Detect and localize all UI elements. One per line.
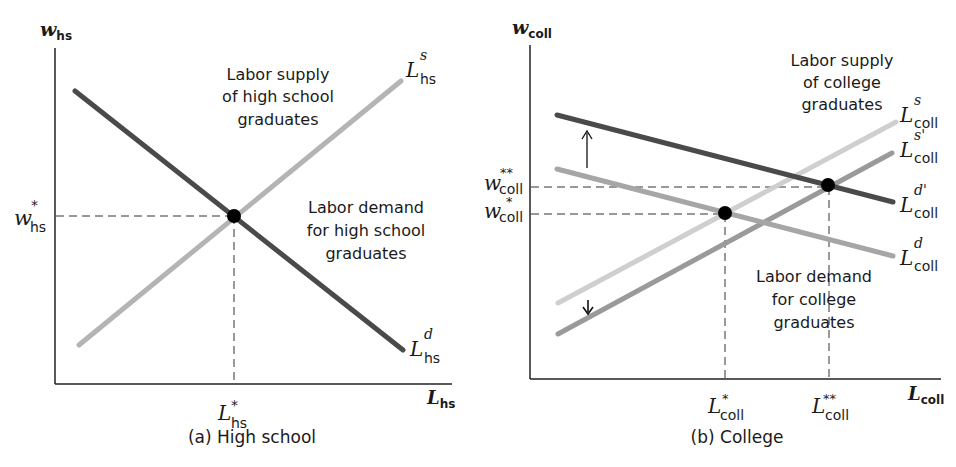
demand-label-hs: L d hs [409, 326, 440, 366]
svg-text:for college: for college [772, 290, 856, 309]
equilibrium-point-coll-2 [821, 178, 835, 192]
svg-text:graduates: graduates [237, 110, 318, 129]
svg-text:L: L [409, 337, 423, 361]
supply-label-coll: L s coll [899, 92, 938, 131]
svg-text:*: * [231, 397, 238, 413]
svg-text:coll: coll [914, 258, 938, 274]
svg-text:coll: coll [720, 407, 744, 423]
svg-text:L: L [405, 58, 419, 82]
svg-text:of college: of college [803, 73, 881, 92]
supply-note-coll: Labor supply of college graduates [790, 51, 893, 114]
panel-b-college: wcoll Lcoll ** w coll * w coll * L coll … [484, 16, 944, 447]
demand-curve-coll-shifted [557, 115, 893, 202]
up-arrow-icon [582, 131, 592, 168]
svg-text:L: L [899, 246, 913, 270]
demand-label-coll: L d coll [899, 235, 938, 274]
svg-text:for high school: for high school [307, 221, 425, 240]
svg-text:coll: coll [825, 407, 849, 423]
eq-qty-1-label-b: * L coll [707, 391, 744, 423]
caption-a: (a) High school [188, 427, 316, 447]
eq-wage-2-label-b: ** w coll [484, 165, 523, 197]
x-axis-label-a: Lhs [426, 387, 455, 411]
figure-canvas: whs Lhs * w hs * L hs L s hs L d hs [0, 0, 956, 467]
svg-text:s: s [420, 47, 427, 63]
eq-qty-label-a: * L hs [217, 397, 247, 431]
equilibrium-point-hs [227, 209, 241, 223]
svg-text:Labor supply: Labor supply [790, 51, 893, 70]
svg-text:d: d [914, 235, 923, 251]
svg-text:L: L [899, 138, 913, 162]
caption-b: (b) College [691, 427, 784, 447]
y-axis-label-b: wcoll [512, 16, 552, 41]
svg-text:hs: hs [420, 71, 436, 87]
svg-text:graduates: graduates [801, 95, 882, 114]
svg-text:Labor demand: Labor demand [756, 267, 872, 286]
svg-text:s': s' [914, 127, 925, 143]
svg-text:L: L [899, 103, 913, 127]
svg-text:hs: hs [30, 219, 46, 235]
svg-text:of high school: of high school [222, 87, 334, 106]
supply-shift-label-coll: L s' coll [899, 127, 938, 166]
x-axis-label-b: Lcoll [907, 383, 944, 407]
svg-text:graduates: graduates [773, 313, 854, 332]
panel-a-high-school: whs Lhs * w hs * L hs L s hs L d hs [14, 18, 455, 447]
demand-note-coll: Labor demand for college graduates [756, 267, 872, 332]
equilibrium-point-coll-1 [718, 206, 732, 220]
down-arrow-icon [583, 300, 593, 314]
svg-text:L: L [811, 394, 825, 418]
supply-label-hs: L s hs [405, 47, 436, 87]
svg-text:L: L [899, 193, 913, 217]
eq-wage-1-label-b: * w coll [484, 194, 523, 225]
svg-text:Labor supply: Labor supply [226, 65, 329, 84]
svg-text:coll: coll [499, 209, 523, 225]
demand-shift-label-coll: L d' coll [899, 182, 938, 221]
svg-text:d': d' [914, 182, 927, 198]
svg-text:s: s [914, 92, 921, 108]
svg-text:*: * [722, 391, 729, 406]
demand-note-hs: Labor demand for high school graduates [307, 198, 425, 263]
svg-text:Labor demand: Labor demand [308, 198, 424, 217]
svg-text:coll: coll [914, 150, 938, 166]
svg-text:L: L [217, 401, 231, 425]
svg-text:hs: hs [424, 350, 440, 366]
supply-note-hs: Labor supply of high school graduates [222, 65, 334, 129]
eq-wage-label-a: * w hs [14, 197, 46, 235]
svg-text:**: ** [500, 165, 514, 180]
eq-qty-2-label-b: ** L coll [811, 391, 849, 423]
svg-text:d: d [424, 326, 433, 342]
y-axis-label-a: whs [40, 18, 72, 43]
svg-text:graduates: graduates [325, 244, 406, 263]
svg-text:*: * [31, 197, 38, 213]
svg-text:*: * [506, 194, 513, 209]
svg-text:coll: coll [914, 205, 938, 221]
